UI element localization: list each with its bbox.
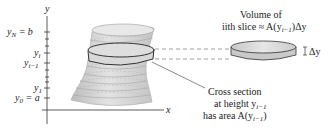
cross-section-caption-line3: has area A(yi−1) xyxy=(203,110,267,125)
cross-section-leader-line xyxy=(152,62,205,88)
x-axis-label: x xyxy=(166,104,170,115)
volume-caption-line2: iith slice ≈ A(yi−1)Δy xyxy=(222,21,307,36)
volume-caption-line1: Volume of xyxy=(240,9,282,20)
tick-label-y0: y0 = a xyxy=(15,92,40,107)
detached-slice-disk xyxy=(231,41,296,60)
tick-label-yN: yN = b xyxy=(7,26,33,41)
y-axis-label: y xyxy=(45,3,49,14)
slice-connector-lines xyxy=(155,49,230,59)
highlighted-slice xyxy=(88,43,154,65)
solid-body xyxy=(71,24,154,106)
cross-section-caption-line1: Cross section xyxy=(208,86,262,97)
tick-label-yi-minus-1: yi−1 xyxy=(24,57,39,72)
delta-y-label: Δy xyxy=(309,46,320,57)
delta-y-bracket xyxy=(303,47,307,55)
